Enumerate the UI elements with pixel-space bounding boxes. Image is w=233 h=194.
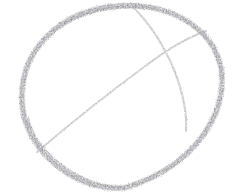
sketch-canvas xyxy=(0,0,233,194)
sphere-sketch-drawing xyxy=(0,0,233,194)
